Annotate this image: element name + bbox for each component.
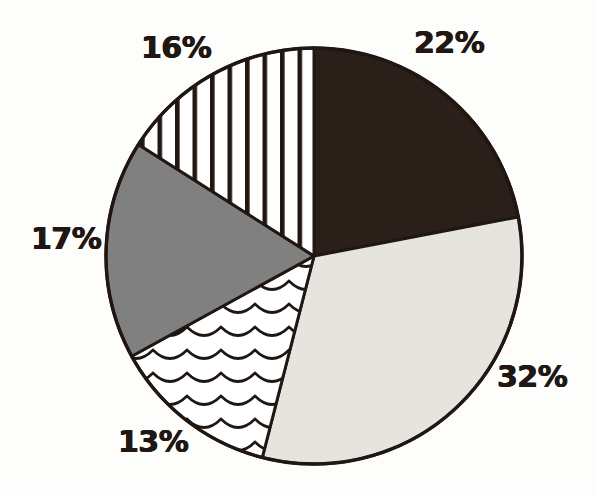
- pie-label-22: 22%: [414, 28, 484, 58]
- pie-label-32: 32%: [497, 362, 567, 392]
- pie-label-17: 17%: [31, 224, 101, 254]
- pie-label-16: 16%: [141, 33, 211, 63]
- pie-label-13: 13%: [118, 427, 188, 457]
- pie-chart-figure: 22% 16% 17% 13% 32%: [0, 0, 597, 494]
